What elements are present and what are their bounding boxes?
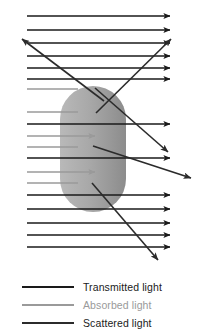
legend: Transmitted light Absorbed light Scatter… [0, 278, 205, 332]
legend-swatch-scattered [22, 322, 74, 324]
legend-label-absorbed: Absorbed light [83, 299, 152, 311]
particle-group [60, 86, 126, 212]
legend-swatch-absorbed [22, 304, 74, 306]
legend-label-transmitted: Transmitted light [83, 281, 162, 293]
particle-shape [60, 86, 126, 212]
legend-item-scattered: Scattered light [0, 314, 205, 332]
legend-item-transmitted: Transmitted light [0, 278, 205, 296]
legend-label-scattered: Scattered light [83, 317, 152, 329]
legend-item-absorbed: Absorbed light [0, 296, 205, 314]
legend-swatch-transmitted [22, 286, 74, 288]
